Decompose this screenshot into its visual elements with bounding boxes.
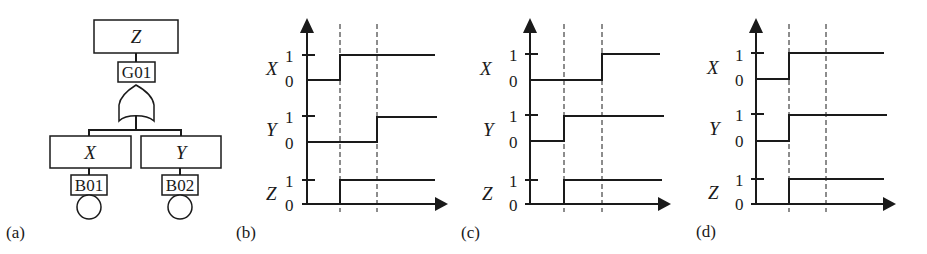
or-gate-icon xyxy=(119,85,154,121)
tick-label-low: 0 xyxy=(509,133,518,152)
signal-z-name: Z xyxy=(266,183,277,204)
top-event-label: Z xyxy=(131,26,142,47)
branch-bus xyxy=(89,130,181,136)
tick-label-high: 1 xyxy=(285,108,294,127)
y-axis-arrow-icon xyxy=(300,18,314,33)
child-event-y-box: Y xyxy=(141,136,221,168)
y-axis-arrow-icon xyxy=(749,18,763,33)
tick-label-low: 0 xyxy=(735,71,744,90)
panel-label-a: (a) xyxy=(6,223,25,242)
x-axis-arrow-icon xyxy=(883,197,896,211)
tick-label-low: 0 xyxy=(509,196,518,215)
signal-x-waveform xyxy=(307,55,435,80)
signal-y-name: Y xyxy=(709,118,722,139)
x-axis-arrow-icon xyxy=(435,197,448,211)
tick-label-high: 1 xyxy=(735,46,744,65)
panel-label-d: (d) xyxy=(696,222,716,241)
signal-y-waveform xyxy=(307,117,437,142)
tick-label-high: 1 xyxy=(285,47,294,66)
signal-x-name: X xyxy=(706,57,720,78)
panel-label-c: (c) xyxy=(461,223,480,242)
tick-label-high: 1 xyxy=(509,107,518,126)
tick-label-low: 0 xyxy=(509,72,518,91)
basic-event-b02-label: B02 xyxy=(166,176,194,195)
signal-z-waveform xyxy=(564,180,662,204)
x-axis-arrow-icon xyxy=(658,197,671,211)
panel-label-b: (b) xyxy=(236,223,256,242)
timing-panel-c: X 1 0 Y 1 0 Z 1 0 (c) xyxy=(461,18,671,242)
top-event-box: Z xyxy=(94,20,178,53)
signal-y-waveform xyxy=(530,116,664,141)
signal-z-waveform xyxy=(340,180,435,204)
signal-x-name: X xyxy=(479,58,493,79)
signal-y-name: Y xyxy=(266,119,279,140)
basic-event-circle-icon xyxy=(168,195,192,219)
tick-label-low: 0 xyxy=(735,132,744,151)
tick-label-low: 0 xyxy=(285,196,294,215)
tick-label-low: 0 xyxy=(285,72,294,91)
tick-label-low: 0 xyxy=(735,195,744,214)
fault-tree-panel: Z G01 X B01 Y B02 xyxy=(6,20,221,242)
tick-label-high: 1 xyxy=(735,106,744,125)
basic-event-b01-label: B01 xyxy=(75,176,103,195)
signal-z-name: Z xyxy=(482,183,493,204)
tick-label-high: 1 xyxy=(735,171,744,190)
gate-id-label: G01 xyxy=(122,63,151,82)
signal-z-name: Z xyxy=(708,182,719,203)
tick-label-high: 1 xyxy=(509,46,518,65)
timing-panel-b: X 1 0 Y 1 0 Z 1 0 (b) xyxy=(236,18,448,242)
timing-panel-d: X 1 0 Y 1 0 Z 1 0 (d) xyxy=(696,18,896,241)
tick-label-high: 1 xyxy=(509,172,518,191)
signal-z-waveform xyxy=(789,179,884,204)
gate-id-box: G01 xyxy=(118,62,155,82)
y-axis-arrow-icon xyxy=(523,18,537,33)
signal-y-name: Y xyxy=(483,119,496,140)
child-event-x-box: X xyxy=(50,136,131,168)
basic-event-b02-box: B02 xyxy=(162,175,198,195)
signal-y-waveform xyxy=(756,115,887,141)
signal-x-waveform xyxy=(530,54,660,80)
signal-x-name: X xyxy=(265,58,279,79)
child-event-x-label: X xyxy=(83,142,97,163)
tick-label-low: 0 xyxy=(285,134,294,153)
tick-label-high: 1 xyxy=(285,172,294,191)
signal-x-waveform xyxy=(756,53,884,79)
basic-event-b01-box: B01 xyxy=(71,175,107,195)
basic-event-circle-icon xyxy=(77,195,101,219)
